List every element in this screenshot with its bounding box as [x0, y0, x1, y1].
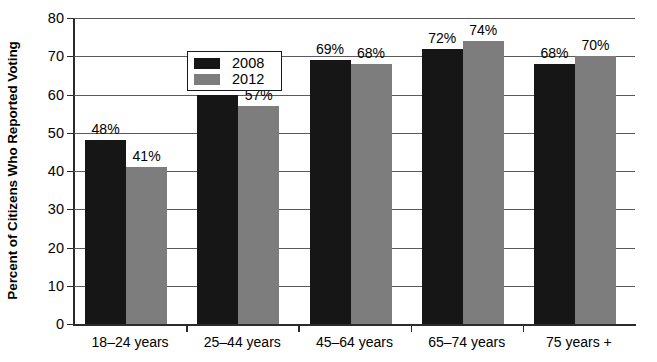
bar-value-label: 41%	[133, 148, 161, 164]
bar-value-label: 68%	[357, 45, 385, 61]
y-axis-title: Percent of Citizens Who Reported Voting	[0, 0, 24, 340]
x-axis-category-label: 45–64 years	[316, 334, 393, 350]
y-axis-tick-mark	[67, 56, 74, 57]
x-axis-tick-mark	[298, 324, 300, 332]
y-axis-tick-mark	[67, 324, 74, 325]
bar	[351, 64, 392, 324]
y-axis-tick-mark	[67, 248, 74, 249]
legend-swatch-2008	[194, 58, 220, 69]
y-axis-tick-mark	[67, 18, 74, 19]
bar-value-label: 48%	[92, 121, 120, 137]
x-axis-tick-mark	[186, 324, 188, 332]
plot-area: 01020304050607080 48%41%60%57%69%68%72%7…	[74, 18, 635, 324]
y-axis-tick-mark	[67, 95, 74, 96]
y-axis-tick-label: 50	[48, 125, 64, 141]
y-axis-tick-label: 20	[48, 240, 64, 256]
y-axis-tick-label: 30	[48, 201, 64, 217]
bar-value-label: 74%	[469, 22, 497, 38]
y-axis-tick-label: 10	[48, 278, 64, 294]
bar	[575, 56, 616, 324]
legend-swatch-2012	[194, 74, 220, 85]
bar	[534, 64, 575, 324]
bar	[310, 60, 351, 324]
y-axis-tick-label: 80	[48, 10, 64, 26]
bar-value-label: 70%	[581, 37, 609, 53]
x-axis-category-label: 75 years +	[546, 334, 612, 350]
bar	[463, 41, 504, 324]
y-axis-tick-label: 60	[48, 87, 64, 103]
x-axis-tick-mark	[523, 324, 525, 332]
bar	[197, 95, 238, 325]
x-axis-category-label: 65–74 years	[428, 334, 505, 350]
y-axis-tick-label: 40	[48, 163, 64, 179]
bar-value-label: 68%	[540, 45, 568, 61]
y-axis-tick-mark	[67, 133, 74, 134]
y-axis-tick-mark	[67, 209, 74, 210]
y-axis-tick-mark	[67, 286, 74, 287]
bar	[126, 167, 167, 324]
y-axis-title-text: Percent of Citizens Who Reported Voting	[5, 41, 20, 299]
x-axis-category-label: 25–44 years	[204, 334, 281, 350]
bar	[238, 106, 279, 324]
legend-label-2012: 2012	[232, 72, 264, 87]
y-axis-tick-label: 70	[48, 48, 64, 64]
y-axis-tick-mark	[67, 171, 74, 172]
gridline	[74, 18, 635, 19]
legend: 2008 2012	[187, 51, 282, 91]
legend-item-2008: 2008	[194, 55, 276, 71]
y-axis-tick-label: 0	[56, 316, 64, 332]
x-axis-category-label: 18–24 years	[92, 334, 169, 350]
legend-label-2008: 2008	[232, 56, 264, 71]
bar	[85, 140, 126, 324]
bar-value-label: 69%	[316, 41, 344, 57]
bar-value-label: 72%	[428, 30, 456, 46]
chart-screenshot: Percent of Citizens Who Reported Voting …	[0, 0, 657, 362]
x-axis-line	[73, 324, 636, 326]
x-axis-tick-mark	[411, 324, 413, 332]
legend-item-2012: 2012	[194, 71, 276, 87]
bar	[422, 49, 463, 324]
